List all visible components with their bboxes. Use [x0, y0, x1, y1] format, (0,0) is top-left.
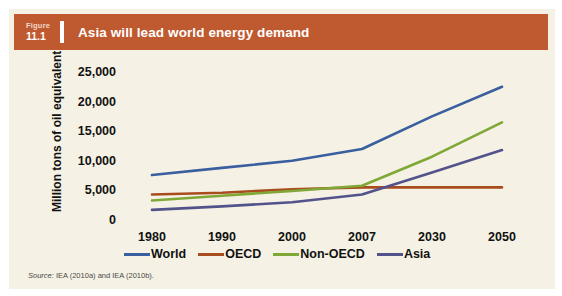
- series-line-non-oecd: [152, 122, 502, 200]
- page-edge-right: [555, 0, 562, 296]
- x-axis-tick-label: 2000: [278, 230, 306, 244]
- page-edge-left: [0, 0, 9, 296]
- legend-swatch: [124, 253, 150, 256]
- x-axis-tick-label: 2030: [418, 230, 446, 244]
- x-axis-tick-label: 1980: [138, 230, 166, 244]
- source-label: Source:: [28, 271, 54, 280]
- legend-item-oecd: OECD: [198, 247, 261, 261]
- legend-label: OECD: [225, 247, 261, 261]
- legend-item-non-oecd: Non-OECD: [273, 247, 365, 261]
- page-edge-top: [0, 0, 562, 9]
- figure-title: Asia will lead world energy demand: [78, 25, 309, 40]
- x-axis-tick-label: 2050: [488, 230, 516, 244]
- legend-label: World: [151, 247, 186, 261]
- legend-swatch: [273, 253, 299, 256]
- legend-item-world: World: [124, 247, 186, 261]
- legend-label: Asia: [404, 247, 430, 261]
- legend-item-asia: Asia: [377, 247, 430, 261]
- figure-number-block: Figure 11.1: [14, 22, 58, 42]
- y-axis-tick-label: 20,000: [78, 95, 116, 109]
- figure-number-value: 11.1: [26, 31, 58, 42]
- plot-area: [124, 58, 520, 234]
- series-lines: [124, 58, 520, 234]
- banner-divider: [60, 21, 64, 43]
- legend-swatch: [377, 253, 403, 256]
- y-axis-tick-label: 25,000: [78, 65, 116, 79]
- page-edge-bottom: [0, 289, 562, 296]
- y-axis-tick-label: 15,000: [78, 124, 116, 138]
- figure-number-word: Figure: [26, 22, 58, 30]
- y-axis-tick-label: 5,000: [85, 183, 116, 197]
- source-text: IEA (2010a) and IEA (2010b).: [54, 271, 154, 280]
- y-axis-tick-labels: 05,00010,00015,00020,00025,000: [56, 58, 116, 234]
- x-axis-tick-label: 2007: [348, 230, 376, 244]
- source-note: Source: IEA (2010a) and IEA (2010b).: [28, 271, 154, 280]
- legend-label: Non-OECD: [300, 247, 365, 261]
- chart: Million tons of oil equivalent 05,00010,…: [14, 58, 548, 258]
- series-line-asia: [152, 150, 502, 210]
- chart-legend: WorldOECDNon-OECDAsia: [124, 246, 524, 262]
- x-axis-tick-label: 1990: [208, 230, 236, 244]
- figure-banner: Figure 11.1 Asia will lead world energy …: [14, 14, 548, 50]
- figure-card: Figure 11.1 Asia will lead world energy …: [0, 0, 562, 296]
- y-axis-tick-label: 0: [109, 213, 116, 227]
- series-line-world: [152, 87, 502, 175]
- legend-swatch: [198, 253, 224, 256]
- y-axis-tick-label: 10,000: [78, 154, 116, 168]
